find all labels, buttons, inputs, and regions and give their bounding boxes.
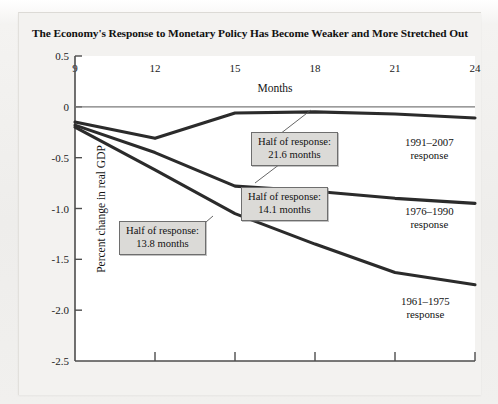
y-tick-label: -2.5 — [35, 355, 69, 367]
series-label-response: response — [405, 149, 454, 162]
y-tick-label: -0.5 — [35, 152, 69, 164]
annotation-half-response-13-8: Half of response: 13.8 months — [119, 221, 206, 255]
annotation-line-2: 21.6 months — [258, 149, 331, 162]
y-tick-label: 0 — [35, 101, 69, 113]
annotation-half-response-21-6: Half of response: 21.6 months — [251, 132, 338, 166]
series-label-years: 1961–1975 — [401, 295, 450, 308]
y-tick-label: -1.5 — [35, 253, 69, 265]
y-tick-label: 0.5 — [35, 50, 69, 62]
figure: The Economy's Response to Monetary Polic… — [0, 0, 498, 404]
annotation-line-2: 13.8 months — [126, 238, 199, 251]
annotation-line-1: Half of response: — [248, 191, 321, 204]
series-label-1961-1975: 1961–1975 response — [401, 295, 450, 321]
annotation-line-1: Half of response: — [126, 225, 199, 238]
annotation-line-1: Half of response: — [258, 136, 331, 149]
series-label-response: response — [401, 308, 450, 321]
series-label-years: 1976–1990 — [405, 205, 454, 218]
series-label-years: 1991–2007 — [405, 136, 454, 149]
series-label-response: response — [405, 218, 454, 231]
plot-area: 0.5 0 -0.5 -1.0 -1.5 -2.0 -2.5 Percent c… — [75, 56, 475, 361]
annotation-half-response-14-1: Half of response: 14.1 months — [241, 187, 328, 221]
y-tick-label: -1.0 — [35, 203, 69, 215]
chart-title: The Economy's Response to Monetary Polic… — [19, 27, 481, 39]
series-label-1991-2007: 1991–2007 response — [405, 136, 454, 162]
annotation-line-2: 14.1 months — [248, 204, 321, 217]
leader-line-14-1 — [255, 164, 280, 183]
series-label-1976-1990: 1976–1990 response — [405, 205, 454, 231]
figure-frame: The Economy's Response to Monetary Polic… — [18, 12, 481, 395]
y-tick-label: -2.0 — [35, 304, 69, 316]
